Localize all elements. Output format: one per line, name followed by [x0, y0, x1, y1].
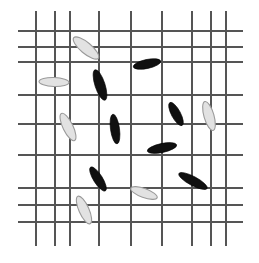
stimulus-figure — [0, 0, 259, 263]
figure-background — [0, 0, 259, 263]
stimulus-canvas — [0, 0, 259, 263]
